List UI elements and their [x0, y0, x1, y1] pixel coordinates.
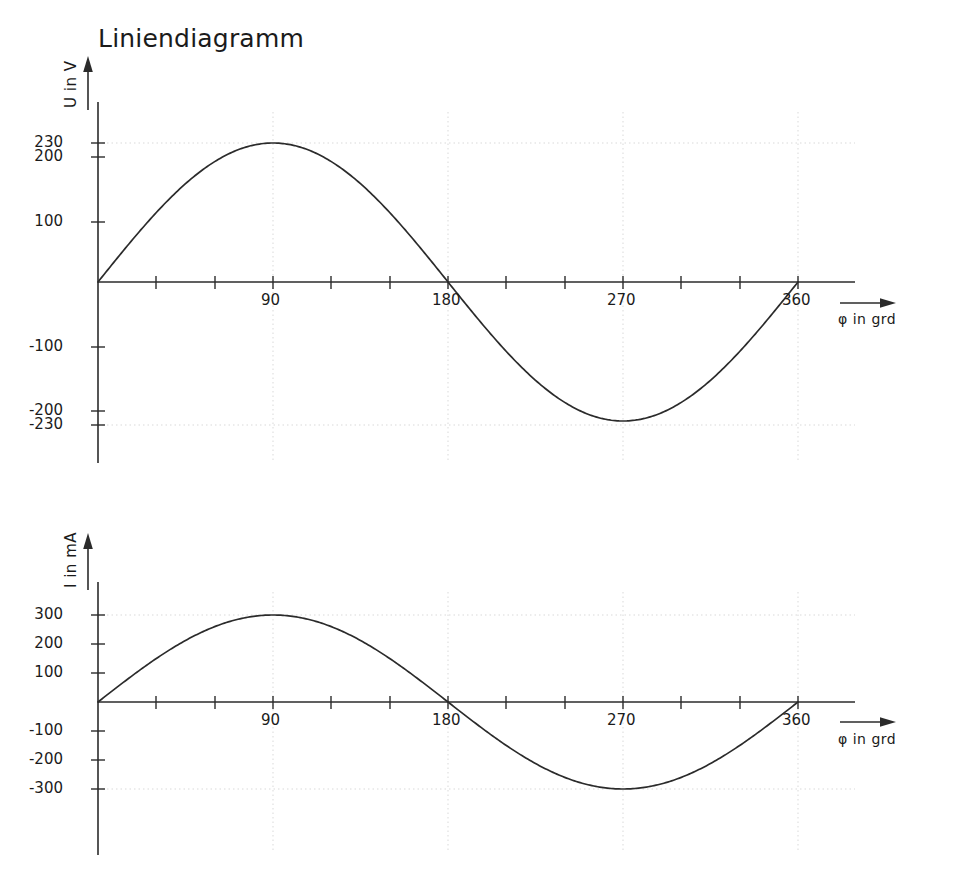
x-tick-label-90: 90 — [261, 291, 280, 309]
page-title: Liniendiagramm — [98, 24, 304, 53]
x-axis-arrow-voltage — [840, 298, 896, 308]
line-diagram-canvas — [0, 0, 955, 875]
diagram-page: Liniendiagramm U in V 230 200 100 -100 -… — [0, 0, 955, 875]
x-tick-label-360: 360 — [782, 291, 811, 309]
y-tick-label-300: 300 — [20, 605, 63, 623]
x-tick-label-90-b: 90 — [261, 711, 280, 729]
y-tick-label-neg300: -300 — [12, 779, 63, 797]
y-tick-label-200: 200 — [20, 147, 63, 165]
y-axis-arrow-current — [83, 533, 93, 590]
y-tick-label-neg200-b: -200 — [12, 750, 63, 768]
y-tick-label-neg100: -100 — [12, 337, 63, 355]
x-tick-label-180-b: 180 — [432, 711, 461, 729]
x-axis-arrow-current — [840, 717, 896, 727]
x-axis-label-voltage: φ in grd — [838, 311, 896, 327]
y-tick-label-neg100-b: -100 — [12, 721, 63, 739]
x-tick-label-360-b: 360 — [782, 711, 811, 729]
y-tick-label-100: 100 — [20, 212, 63, 230]
x-axis-label-current: φ in grd — [838, 731, 896, 747]
y-axis-label-current: I in mA — [62, 532, 80, 588]
x-tick-label-270: 270 — [607, 291, 636, 309]
y-tick-label-neg230: -230 — [12, 415, 63, 433]
x-tick-label-180: 180 — [432, 291, 461, 309]
y-tick-label-200-b: 200 — [20, 634, 63, 652]
x-tick-label-270-b: 270 — [607, 711, 636, 729]
y-axis-arrow-voltage — [83, 56, 93, 110]
y-axis-label-voltage: U in V — [62, 61, 80, 108]
grid-current — [98, 592, 855, 852]
y-tick-label-100-b: 100 — [20, 663, 63, 681]
